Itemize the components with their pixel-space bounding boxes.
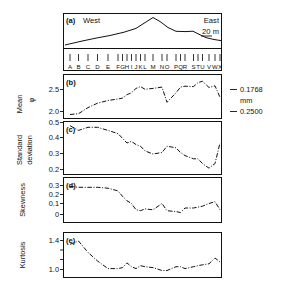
panel-d: (d) Skewness 0.3 0.2 0.1 0 [18,178,222,223]
panel-c-ylabel-line1: Standard [15,135,24,165]
station-label: B [76,63,80,70]
panel-d-ytick: 0.2 [49,190,59,199]
station-label: H [125,63,129,70]
panel-c: (c) Standard deviation 0.5 0.4 0.3 0.2 [15,118,222,175]
panel-b: (b) Mean φ 2.5 2.0 0.1768 mm 0.2500 [15,75,263,119]
panel-e-ytick: 1.0 [49,265,59,274]
station-axis: A B C D E F G H I J K L M N O P Q R S T … [64,49,223,71]
panel-c-ytick: 0.2 [49,165,59,174]
panel-b-right-label-bottom: 0.2500 [240,107,263,116]
panel-c-ytick: 0.5 [49,118,59,127]
panel-d-ytick: 0 [55,210,59,219]
station-label: A [68,63,73,70]
panel-c-series-line [70,126,220,169]
panel-b-frame [64,75,222,119]
station-label: D [95,63,100,70]
station-label: N [160,63,164,70]
panel-a-scale-label: 20 m [202,27,219,36]
station-label: C [86,63,91,70]
panel-e-series-line [70,241,220,271]
station-tickmarks [70,54,220,61]
panel-a-east-label: East [204,16,220,25]
panel-d-series-line [70,186,220,212]
panel-b-ylabel-mean: Mean [15,95,24,114]
panel-c-ylabel-line2: deviation [25,135,34,165]
panel-b-series-line [70,81,220,114]
panel-b-right-label-top: 0.1768 [240,85,263,94]
panel-e-ylabel: Kurtosis [18,241,27,268]
station-label: X [218,63,222,70]
panel-e-frame [64,233,222,278]
panel-e: (e) Kurtosis 1.4 1.0 [18,233,222,278]
multi-panel-figure: (a) West East 20 m [0,0,284,298]
panel-b-ylabel-phi: φ [27,97,36,102]
panel-b-right-label-unit: mm [240,96,252,105]
station-label: J [134,63,137,70]
panel-b-ytick: 2.5 [49,85,59,94]
station-labels: A B C D E F G H I J K L M N O P Q R S T … [68,63,222,70]
station-label: O [165,63,170,70]
panel-a-tag: (a) [66,16,76,25]
station-label: K [138,63,142,70]
station-label: U [200,63,204,70]
panel-d-ytick: 0.3 [49,181,59,190]
panel-d-tag: (d) [66,181,76,190]
station-label: R [183,63,188,70]
panel-b-ytick: 2.0 [49,107,59,116]
panel-c-ytick: 0.3 [49,149,59,158]
panel-e-ytick: 1.4 [49,236,59,245]
station-label: M [150,63,155,70]
panel-a-west-label: West [83,16,101,25]
station-label: L [143,63,147,70]
station-label: I [131,63,133,70]
panel-b-tag: (b) [66,78,76,87]
panel-d-frame [64,178,222,223]
figure-container: (a) West East 20 m [0,0,284,298]
panel-d-ytick: 0.1 [49,199,59,208]
station-label: S [191,63,195,70]
panel-d-ylabel: Skewness [18,183,27,217]
panel-c-ytick: 0.4 [49,133,59,142]
panel-a: (a) West East 20 m [64,14,222,49]
station-label: E [106,63,110,70]
